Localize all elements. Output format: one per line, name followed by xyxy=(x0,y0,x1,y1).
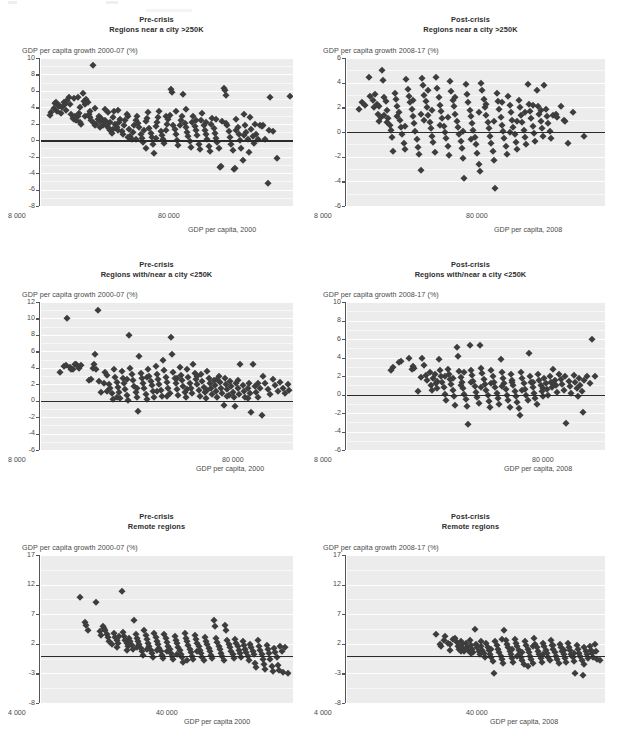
gridline xyxy=(347,413,605,414)
data-point xyxy=(173,108,179,114)
data-point xyxy=(232,402,238,408)
x-axis-tick-label: 40 000 xyxy=(156,709,178,717)
data-point xyxy=(487,404,493,410)
data-point xyxy=(558,103,564,109)
data-point xyxy=(415,388,421,394)
gridline xyxy=(347,432,605,433)
data-point xyxy=(239,157,245,163)
y-axis-tick xyxy=(36,74,39,75)
data-point xyxy=(460,155,466,161)
y-axis-tick xyxy=(36,351,39,352)
panel-title-line1: Post-crisis xyxy=(314,15,627,25)
y-axis-tick-label: -3 xyxy=(311,669,341,677)
y-axis-tick xyxy=(36,673,39,674)
panel-title-line2: Remote regions xyxy=(0,522,313,532)
data-point xyxy=(524,663,530,669)
gridline xyxy=(347,555,605,556)
x-axis-tick-label: 80 000 xyxy=(466,212,488,220)
data-point xyxy=(204,368,210,374)
gridline-minor xyxy=(41,83,293,84)
data-point xyxy=(242,121,248,127)
y-axis-tick xyxy=(342,585,345,586)
x-axis-tick-label: 4 000 xyxy=(314,709,332,717)
y-axis-tick-label: -2 xyxy=(311,409,341,417)
gridline xyxy=(41,434,293,435)
data-point xyxy=(372,91,378,97)
data-point xyxy=(183,394,189,400)
data-point xyxy=(517,104,523,110)
y-axis-tick xyxy=(36,335,39,336)
data-point xyxy=(246,148,252,154)
gridline xyxy=(41,417,293,418)
gridline-minor xyxy=(41,360,293,361)
gridline xyxy=(41,74,293,75)
y-axis-tick xyxy=(342,339,345,340)
data-point xyxy=(591,373,597,379)
gridline xyxy=(347,58,605,59)
gridline-minor xyxy=(41,688,293,689)
data-point xyxy=(528,115,534,121)
y-axis-tick-label: -4 xyxy=(311,427,341,435)
y-axis-tick-label: 2 xyxy=(311,639,341,647)
panel-title-line1: Pre-crisis xyxy=(0,15,313,25)
data-point xyxy=(567,383,573,389)
plot-area-pre-crisis-remote xyxy=(41,555,293,703)
data-point xyxy=(443,135,449,141)
data-point xyxy=(443,397,449,403)
data-point xyxy=(533,87,539,93)
data-point xyxy=(562,118,568,124)
data-point xyxy=(175,142,181,148)
panel-title-post-crisis-city-lt250k: Post-crisisRegions with/near a city <250… xyxy=(314,260,627,279)
panel-title-post-crisis-city-gt250k: Post-crisisRegions near a city >250K xyxy=(314,15,627,34)
y-axis-line xyxy=(39,555,40,703)
gridline xyxy=(41,614,293,615)
data-point xyxy=(468,113,474,119)
data-point xyxy=(486,125,492,131)
y-axis-tick-label: 2 xyxy=(5,639,35,647)
data-point xyxy=(376,103,382,109)
panel-post-crisis-city-lt250k: Post-crisisRegions with/near a city <250… xyxy=(314,250,627,498)
data-point xyxy=(572,670,578,676)
panel-title-pre-crisis-city-lt250k: Pre-crisisRegions with/near a city <250K xyxy=(0,260,313,279)
data-point xyxy=(540,132,546,138)
x-axis-label: GDP per capita, 2008 xyxy=(504,465,572,473)
panel-title-post-crisis-remote: Post-crisisRemote regions xyxy=(314,512,627,531)
zero-reference-line xyxy=(41,401,293,402)
data-point xyxy=(452,110,458,116)
y-axis-tick-label: 2 xyxy=(5,119,35,127)
gridline-minor xyxy=(347,194,605,195)
y-axis-tick xyxy=(36,91,39,92)
plot-area-post-crisis-city-gt250k xyxy=(347,58,605,206)
y-axis-tick xyxy=(342,358,345,359)
gridline-minor xyxy=(41,425,293,426)
data-point xyxy=(550,642,556,648)
data-point xyxy=(477,168,483,174)
data-point xyxy=(145,365,151,371)
data-point xyxy=(475,400,481,406)
data-point xyxy=(180,91,186,97)
gridline xyxy=(41,157,293,158)
data-point xyxy=(462,396,468,402)
data-point xyxy=(483,111,489,117)
data-point xyxy=(501,135,507,141)
zero-reference-line xyxy=(347,132,605,133)
data-point xyxy=(483,100,489,106)
data-point xyxy=(118,587,124,593)
gridline-minor xyxy=(41,442,293,443)
y-axis-tick xyxy=(342,321,345,322)
y-axis-tick xyxy=(342,157,345,158)
panel-title-line2: Regions with/near a city <250K xyxy=(0,270,313,280)
data-point xyxy=(262,665,268,671)
data-point xyxy=(160,356,166,362)
data-point xyxy=(379,67,385,73)
y-axis-tick xyxy=(36,124,39,125)
data-point xyxy=(438,108,444,114)
data-point xyxy=(452,401,458,407)
gridline xyxy=(41,91,293,92)
data-point xyxy=(515,97,521,103)
gridline-minor xyxy=(41,570,293,571)
data-point xyxy=(514,146,520,152)
y-axis-tick-label: 0 xyxy=(5,136,35,144)
data-point xyxy=(403,76,409,82)
gridline-minor xyxy=(41,327,293,328)
